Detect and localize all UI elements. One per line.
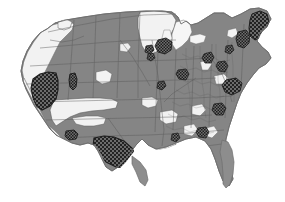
region-arizona-nm-white	[72, 116, 106, 126]
region-hatched-ohio-valley-1	[202, 52, 214, 63]
region-hatched-idaho	[69, 73, 77, 90]
region-hatched-georgia	[212, 103, 226, 115]
us-thematic-map	[0, 0, 285, 202]
region-kansas-patch	[142, 97, 158, 108]
region-hatched-southern-arizona	[65, 130, 78, 140]
map-figure: Shaded region Unshaded region Highlighte…	[0, 0, 285, 202]
